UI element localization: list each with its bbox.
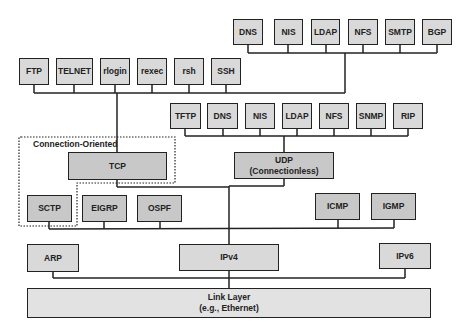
- connection-oriented-label: Connection-Oriented: [33, 139, 118, 149]
- box-ldap-udp: LDAP: [282, 103, 312, 129]
- box-snmp: SNMP: [356, 103, 386, 129]
- box-telnet: TELNET: [56, 58, 93, 85]
- box-sctp: SCTP: [27, 195, 72, 222]
- box-tcp: TCP: [68, 152, 167, 180]
- box-dns-udp: DNS: [207, 103, 238, 129]
- box-ssh: SSH: [211, 58, 241, 85]
- box-rsh: rsh: [174, 58, 204, 85]
- box-ospf: OSPF: [137, 195, 182, 222]
- link-layer-sublabel: (e.g., Ethernet): [199, 303, 259, 314]
- box-nfs-udp: NFS: [319, 103, 349, 129]
- box-rip: RIP: [393, 103, 423, 129]
- box-nis-udp: NIS: [245, 103, 275, 129]
- box-icmp: ICMP: [315, 193, 360, 220]
- box-igmp: IGMP: [371, 193, 416, 220]
- box-smtp: SMTP: [385, 19, 415, 45]
- box-ftp: FTP: [19, 58, 49, 85]
- udp-label: UDP: [275, 155, 293, 166]
- box-link-layer: Link Layer (e.g., Ethernet): [27, 288, 431, 318]
- box-nfs-top: NFS: [348, 19, 378, 45]
- box-bgp: BGP: [422, 19, 452, 45]
- box-rexec: rexec: [137, 58, 167, 85]
- box-tftp: TFTP: [170, 103, 201, 129]
- box-ldap-top: LDAP: [311, 19, 340, 45]
- box-dns-top: DNS: [233, 19, 263, 45]
- box-ipv6: IPv6: [379, 243, 431, 269]
- box-nis-top: NIS: [274, 19, 303, 45]
- box-ipv4: IPv4: [179, 244, 279, 271]
- box-rlogin: rlogin: [100, 58, 130, 85]
- box-eigrp: EIGRP: [82, 195, 127, 222]
- box-udp: UDP (Connectionless): [234, 152, 334, 179]
- udp-sublabel: (Connectionless): [250, 166, 319, 177]
- link-layer-label: Link Layer: [208, 292, 251, 303]
- box-arp: ARP: [27, 244, 79, 272]
